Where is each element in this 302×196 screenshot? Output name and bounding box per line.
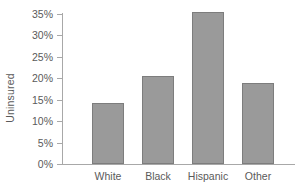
x-axis-label-hispanic: Hispanic — [188, 170, 228, 182]
y-axis-tick-label: 0% — [9, 159, 53, 170]
bar-other — [242, 83, 274, 164]
x-axis-label-white: White — [95, 170, 122, 182]
y-axis-tick-label: 35% — [9, 9, 53, 20]
bar-white — [92, 103, 124, 164]
y-axis-tick-label: 20% — [9, 73, 53, 84]
y-axis-tick-label: 5% — [9, 137, 53, 148]
x-axis-label-black: Black — [145, 170, 171, 182]
uninsured-by-race-bar-chart: Uninsured 0%5%10%15%20%25%30%35% WhiteBl… — [0, 0, 302, 196]
bar-hispanic — [192, 12, 224, 164]
y-axis-tick-label: 15% — [9, 94, 53, 105]
y-axis-tick-label: 25% — [9, 52, 53, 63]
x-axis-line — [62, 164, 295, 165]
x-axis-label-other: Other — [245, 170, 271, 182]
y-axis-tick-label: 10% — [9, 116, 53, 127]
y-axis-tick-mark — [57, 164, 62, 165]
bar-black — [142, 76, 174, 164]
y-axis-tick-label: 30% — [9, 30, 53, 41]
plot-area — [62, 14, 295, 164]
